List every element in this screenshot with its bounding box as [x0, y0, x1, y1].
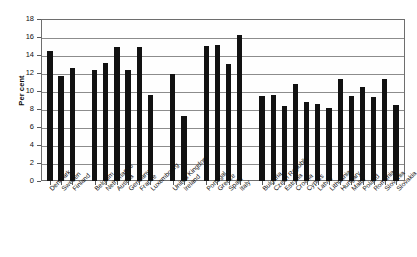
- y-axis-tick-label: 16: [10, 33, 34, 41]
- y-axis-tick-label: 2: [10, 159, 34, 167]
- bar: [114, 47, 119, 181]
- bar: [271, 95, 276, 181]
- y-axis-tick-mark: [37, 181, 41, 182]
- bar: [70, 68, 75, 181]
- bar: [103, 63, 108, 181]
- bar: [215, 45, 220, 181]
- bar: [259, 96, 264, 181]
- bar: [360, 87, 365, 182]
- bar: [349, 96, 354, 182]
- bar: [326, 108, 331, 181]
- bar: [125, 70, 130, 181]
- bar: [181, 116, 186, 181]
- y-axis-tick-label: 14: [10, 51, 34, 59]
- bar: [237, 35, 242, 181]
- bar: [204, 46, 209, 181]
- bar: [338, 79, 343, 181]
- bar: [226, 64, 231, 181]
- y-axis-tick-label: 6: [10, 123, 34, 131]
- bar: [371, 97, 376, 181]
- y-axis-tick-label: 12: [10, 69, 34, 77]
- y-axis-tick-label: 18: [10, 15, 34, 23]
- bar: [315, 104, 320, 181]
- bar: [293, 84, 298, 181]
- bar: [170, 74, 175, 181]
- bar: [393, 105, 398, 181]
- y-axis-tick-label: 8: [10, 105, 34, 113]
- y-axis-tick-label: 10: [10, 87, 34, 95]
- bar: [282, 106, 287, 181]
- bar: [92, 70, 97, 181]
- bar: [304, 102, 309, 181]
- bar: [47, 51, 52, 181]
- bar-series: [41, 19, 405, 181]
- bar: [382, 79, 387, 181]
- y-axis-tick-label: 0: [10, 177, 34, 185]
- bar: [58, 76, 63, 181]
- bar: [148, 95, 153, 181]
- bar: [137, 47, 142, 181]
- y-axis-tick-label: 4: [10, 141, 34, 149]
